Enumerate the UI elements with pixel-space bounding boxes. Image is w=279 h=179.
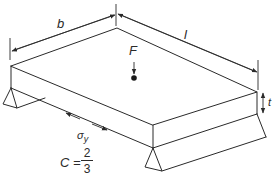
- force-arrow: [131, 62, 137, 81]
- left-support: [3, 88, 45, 108]
- front-support: [145, 114, 266, 171]
- fraction-denominator: 3: [81, 163, 93, 175]
- label-b: b: [57, 17, 64, 30]
- dimension-b: [10, 4, 116, 60]
- diagram-drawing: [0, 0, 279, 179]
- label-f: F: [129, 44, 137, 57]
- dimension-l: [118, 14, 258, 90]
- load-point: [131, 75, 137, 81]
- sigma-subscript: y: [84, 134, 89, 144]
- stress-arrows: [66, 113, 107, 130]
- label-constant-lhs: C =: [60, 156, 81, 169]
- fraction-numerator: 2: [81, 147, 93, 161]
- sigma-symbol: σ: [77, 129, 84, 141]
- label-l: l: [184, 28, 187, 41]
- plate-bending-diagram: b l F t σy C = 2 3: [0, 0, 279, 179]
- label-t: t: [268, 97, 271, 108]
- label-sigma-y: σy: [77, 130, 88, 144]
